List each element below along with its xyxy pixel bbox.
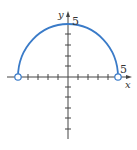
x-axis [7,75,132,79]
y-tick-label: 5 [72,15,79,28]
x-axis-label: x [125,79,131,90]
open-endpoint-left [15,74,21,80]
graph: y 5 5 x [0,0,137,150]
y-axis [66,11,70,139]
y-axis-arrow-icon [66,11,70,17]
y-axis-label: y [57,9,64,20]
x-tick-label: 5 [120,63,127,76]
